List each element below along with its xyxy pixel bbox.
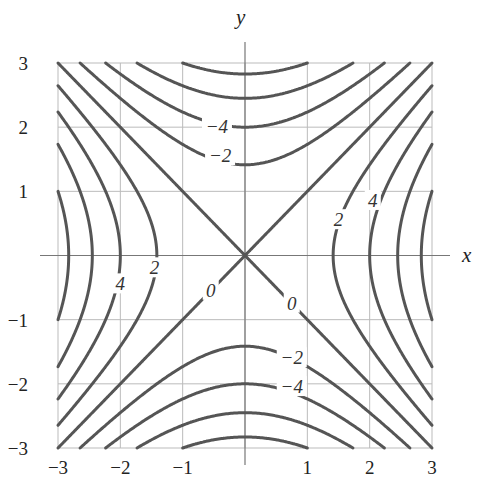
y-tick-label: −3 — [8, 438, 28, 459]
contour-label: 2 — [150, 257, 160, 278]
contour-label: 2 — [334, 209, 344, 230]
y-tick-label: 3 — [19, 53, 29, 74]
x-tick-label: 2 — [365, 457, 375, 478]
contour-label: 4 — [116, 273, 126, 294]
contour-chart: −4−2−2−4002424 −3−2−1123−3−2−1123 x y — [0, 0, 490, 498]
x-tick-label: 3 — [427, 457, 437, 478]
contour-label: −4 — [206, 116, 229, 137]
contour-label: 0 — [206, 280, 216, 301]
x-tick-label: 1 — [303, 457, 313, 478]
x-tick-label: −2 — [110, 457, 130, 478]
x-tick-label: −3 — [48, 457, 68, 478]
contour-label: −2 — [209, 145, 232, 166]
contour-label: −4 — [281, 376, 304, 397]
x-axis-label: x — [461, 243, 472, 267]
y-axis-label: y — [234, 5, 246, 29]
contour-label: −2 — [281, 347, 304, 368]
y-tick-label: −1 — [8, 310, 28, 331]
y-tick-label: −2 — [8, 374, 28, 395]
contour-label: 4 — [368, 190, 378, 211]
contour-label: 0 — [287, 293, 297, 314]
y-tick-label: 1 — [19, 181, 29, 202]
x-tick-label: −1 — [173, 457, 193, 478]
y-tick-label: 2 — [19, 117, 29, 138]
